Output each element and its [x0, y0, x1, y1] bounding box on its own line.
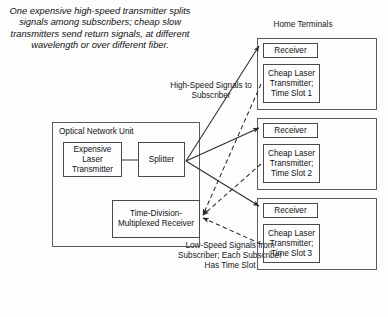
wire-splitter-to-receiver-1 [186, 46, 259, 161]
wire-transmitter-2-to-tdm [203, 164, 261, 215]
connection-wires [0, 0, 388, 317]
wire-splitter-to-receiver-3 [186, 161, 259, 206]
wire-transmitter-3-to-tdm [203, 218, 261, 244]
diagram-canvas: One expensive high-speed transmitter spl… [0, 0, 388, 317]
